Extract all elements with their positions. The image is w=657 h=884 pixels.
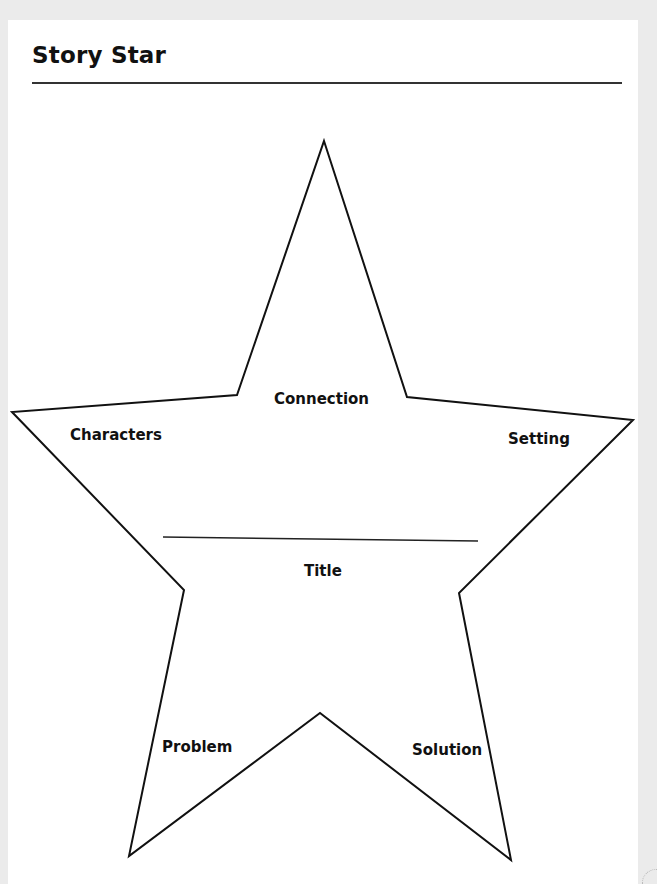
label-connection: Connection [274,390,369,408]
label-solution: Solution [412,741,482,759]
label-title: Title [304,562,342,580]
star-outline [12,141,633,860]
label-setting: Setting [508,430,570,448]
label-problem: Problem [162,738,232,756]
label-characters: Characters [70,426,162,444]
title-write-line[interactable] [163,537,478,541]
